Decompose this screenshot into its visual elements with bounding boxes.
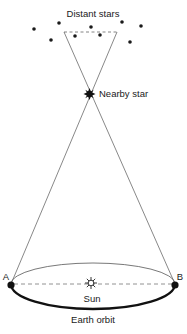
- earth-orbit-label: Earth orbit: [71, 314, 115, 325]
- distant-star-dot: [128, 40, 132, 44]
- distant-stars-label: Distant stars: [67, 8, 120, 19]
- distant-star-dot: [57, 21, 61, 25]
- parallax-diagram: Distant stars Nearby star Sun: [0, 0, 187, 334]
- distant-star-dot: [139, 24, 143, 28]
- distant-star-dot: [120, 20, 124, 24]
- earth-position-b: [171, 281, 178, 288]
- distant-star-dot: [73, 34, 77, 38]
- point-a-label: A: [3, 271, 10, 282]
- sun-icon: [85, 277, 97, 289]
- nearby-star-label: Nearby star: [99, 88, 148, 99]
- sight-line-a: [11, 32, 117, 284]
- distant-star-dot: [89, 25, 93, 29]
- nearby-star-icon: [84, 88, 96, 100]
- distant-star-dot: [98, 33, 102, 37]
- sight-line-b: [64, 32, 175, 284]
- distant-star-dot: [49, 38, 53, 42]
- sun-label: Sun: [84, 293, 101, 304]
- distant-star-dot: [32, 27, 36, 31]
- sight-lines: [11, 32, 175, 284]
- earth-position-a: [7, 281, 14, 288]
- point-b-label: B: [177, 271, 183, 282]
